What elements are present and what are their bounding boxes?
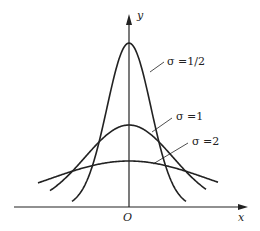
y-axis-label: y [137, 9, 143, 22]
diagram-canvas [0, 0, 260, 231]
x-axis-label: x [238, 211, 244, 224]
y-axis-arrow-icon [126, 14, 132, 25]
gaussian-curve-3 [38, 161, 218, 183]
origin-label: O [123, 211, 132, 224]
leader-line-sigma-2 [153, 143, 188, 164]
curve-label-sigma-half: σ =1/2 [167, 55, 205, 68]
leader-line-sigma-half [150, 62, 164, 72]
gaussian-curve-2 [50, 125, 206, 191]
curve-label-sigma-1: σ =1 [176, 110, 203, 123]
curve-label-sigma-2: σ =2 [192, 135, 219, 148]
x-axis-arrow-icon [238, 204, 248, 210]
normal-distribution-diagram: y x O σ =1/2 σ =1 σ =2 [0, 0, 260, 231]
